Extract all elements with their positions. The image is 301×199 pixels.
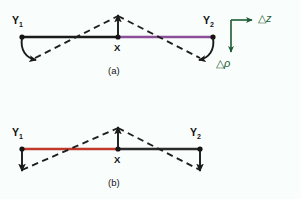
panel-a-caption: (a) bbox=[108, 66, 120, 76]
panel-b-label-y1: Y1 bbox=[12, 127, 23, 140]
panel-b-label-y2: Y2 bbox=[190, 127, 201, 140]
axis-legend-graphics bbox=[0, 0, 301, 199]
figure-canvas: Y1 Y2 X (a) Y1 Y2 X (b) △z △ρ bbox=[0, 0, 301, 199]
panel-a-label-y1: Y1 bbox=[12, 15, 23, 28]
panel-a-label-y2: Y2 bbox=[203, 15, 214, 28]
panel-b-label-x: X bbox=[114, 155, 120, 165]
panel-a-label-x: X bbox=[114, 43, 120, 53]
panel-b-caption: (b) bbox=[108, 178, 120, 188]
axis-label-delta-rho: △ρ bbox=[216, 58, 230, 69]
axis-label-delta-z: △z bbox=[258, 13, 272, 24]
